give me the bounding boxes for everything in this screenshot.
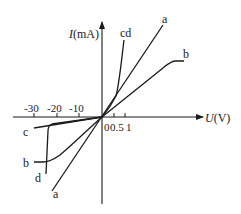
label-cd-top: cd xyxy=(120,26,131,40)
label-a-bottom: a xyxy=(53,187,59,201)
x-axis-label: U(V) xyxy=(205,111,230,125)
label-d-bottom: d xyxy=(35,171,41,185)
tick-label-neg10: -10 xyxy=(69,102,84,114)
tick-label-neg30: -30 xyxy=(24,102,39,114)
tick-label-neg20: -20 xyxy=(47,102,62,114)
curve-cd-forward xyxy=(102,40,124,117)
iu-characteristic-diagram: -30 -20 -10 0 0.5 1 I(mA) U(V) a b cd c … xyxy=(0,0,241,214)
curve-d-reverse xyxy=(46,117,102,174)
tick-label-0-5: 0.5 xyxy=(110,121,124,133)
label-c-left: c xyxy=(23,125,28,139)
label-a-top: a xyxy=(162,12,168,26)
label-b-right: b xyxy=(183,47,189,61)
curve-b-forward xyxy=(102,61,184,117)
y-axis-label: I(mA) xyxy=(68,27,99,41)
label-b-left: b xyxy=(23,156,29,170)
curve-b-reverse xyxy=(34,117,102,162)
tick-label-1: 1 xyxy=(126,121,132,133)
